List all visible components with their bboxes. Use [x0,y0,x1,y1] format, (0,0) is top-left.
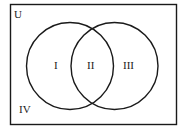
universe-label: U [14,8,22,20]
region-ii-label: II [87,59,95,71]
set-a-circle [27,23,114,110]
set-b-circle [71,23,158,110]
venn-diagram: U I II III IV [0,0,187,130]
region-i-label: I [54,59,58,71]
region-iv-label: IV [19,103,31,115]
region-iii-label: III [123,59,134,71]
